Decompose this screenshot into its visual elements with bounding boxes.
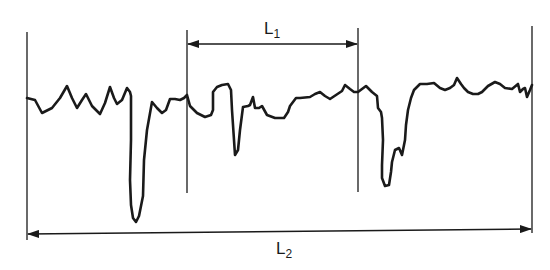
- label-l1-subscript: 1: [273, 27, 280, 41]
- label-l2: L2: [276, 240, 292, 260]
- surface-profile-curve: [27, 78, 532, 222]
- dimension-line-l2: [28, 229, 531, 234]
- dimension-lines: [28, 44, 531, 234]
- extension-lines: [27, 26, 532, 240]
- label-l1: L1: [264, 20, 280, 40]
- label-l2-subscript: 2: [285, 247, 292, 261]
